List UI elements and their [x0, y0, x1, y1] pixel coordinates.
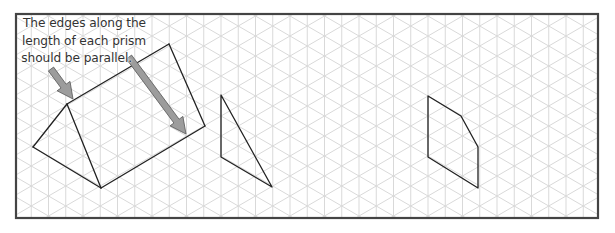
caption-text: The edges along the length of each prism… — [18, 15, 146, 68]
prism-edge — [33, 147, 101, 188]
isometric-worksheet: The edges along the length of each prism… — [0, 0, 615, 233]
caption-line-3: should be parallel. — [18, 50, 146, 68]
caption-line-1: The edges along the — [18, 15, 146, 33]
caption-line-2: length of each prism — [18, 33, 146, 51]
